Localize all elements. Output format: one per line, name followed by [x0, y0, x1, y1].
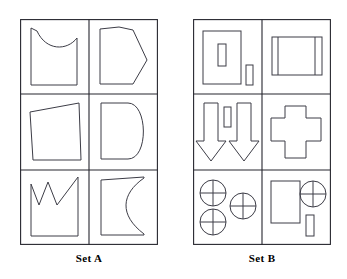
shape-small-vertical-bar: [306, 215, 314, 236]
set-b-grid: [193, 19, 331, 245]
cell-b-r3c2: [271, 181, 326, 236]
panel-set-a: [20, 19, 158, 245]
shape-down-arrow-left: [196, 103, 226, 161]
shape-crown-zigzag-top: [31, 177, 78, 236]
shape-tall-rectangle: [271, 181, 300, 223]
shape-crosshair-circle-1: [200, 180, 226, 206]
shape-d-rounded-right: [101, 103, 143, 159]
cell-b-r1c2: [272, 37, 322, 75]
cell-b-r1c1: [203, 31, 253, 85]
shape-inner-vertical-bar: [218, 44, 226, 66]
shape-large-rectangle: [203, 31, 241, 84]
shape-outer-vertical-bar: [246, 65, 253, 85]
cell-a-r2c1: [30, 103, 81, 160]
shape-crosshair-circle-2: [230, 193, 256, 219]
shape-plus-cross: [271, 106, 321, 158]
cell-b-r2c1: [196, 103, 259, 161]
cell-b-r3c1: [200, 180, 256, 235]
shape-middle-vertical-bar: [224, 107, 231, 127]
shape-pentagon-pointing-right: [100, 27, 147, 84]
cell-a-r1c2: [100, 27, 147, 84]
set-a-grid: [20, 19, 158, 245]
cell-a-r1c1: [31, 28, 77, 85]
shape-square-with-concave-top: [31, 28, 77, 85]
shape-rectangle-concave-right: [101, 177, 144, 235]
panel-set-b: [193, 19, 331, 245]
shape-crosshair-circle-4: [300, 181, 326, 207]
set-b-label: Set B: [193, 252, 331, 264]
cell-a-r3c1: [31, 177, 78, 236]
shape-crosshair-circle-3: [200, 209, 226, 235]
shape-down-arrow-right: [229, 103, 259, 161]
cell-b-r2c2: [271, 106, 321, 158]
shape-trapezoid-slanted-top: [30, 103, 81, 160]
cell-a-r2c2: [101, 103, 143, 159]
cell-a-r3c2: [101, 177, 144, 235]
set-a-label: Set A: [20, 252, 158, 264]
figure-canvas: Set A: [0, 0, 347, 279]
